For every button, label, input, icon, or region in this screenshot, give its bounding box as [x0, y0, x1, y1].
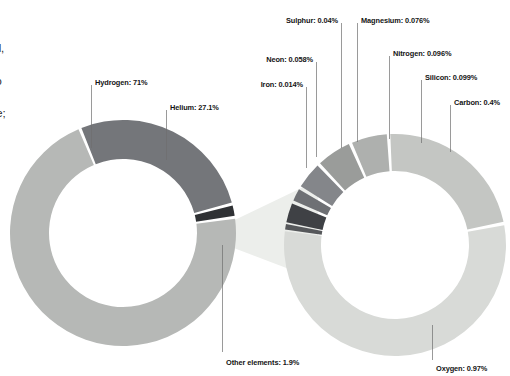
callout-other-elements: Other elements: 1.9% — [222, 358, 299, 367]
donut-slice-helium — [81, 120, 231, 213]
callout-helium: Helium: 27.1% — [166, 103, 219, 112]
body-text-line: carbon — [0, 89, 70, 105]
body-text-line: r — [0, 56, 70, 72]
body-text-line: s. — [0, 24, 70, 40]
donut-chart-other-elements — [282, 132, 508, 358]
callout-silicon: Silicon: 0.099% — [421, 73, 477, 82]
body-text-line: ures fall, — [0, 40, 70, 56]
callout-hydrogen: Hydrogen: 71% — [91, 78, 148, 87]
donut-slice-oxygen — [284, 225, 506, 356]
callout-iron: Iron: 0.014% — [196, 80, 307, 89]
callout-sulphur: Sulphur: 0.04% — [231, 16, 342, 25]
callout-oxygen: Oxygen: 0.97% — [432, 364, 487, 373]
donut-chart-jupiter-composition — [8, 118, 238, 348]
body-text-line: nbine to — [0, 73, 70, 89]
infographic-page: s. ures fall, r nbine to carbon nethane;… — [0, 0, 510, 376]
callout-neon: Neon: 0.058% — [206, 55, 317, 64]
callout-carbon: Carbon: 0.4% — [450, 98, 500, 107]
donut-slice-carbon — [390, 134, 503, 229]
callout-magnesium: Magnesium: 0.076% — [357, 16, 430, 25]
callout-nitrogen: Nitrogen: 0.096% — [389, 49, 451, 58]
